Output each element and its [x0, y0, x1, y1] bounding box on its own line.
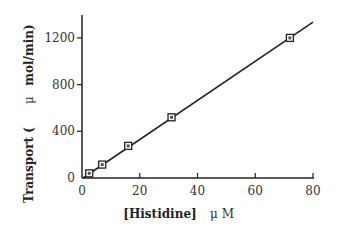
x-tick-label: 60	[248, 184, 263, 198]
y-axis-title: Transport (	[22, 127, 36, 203]
x-tick-label: 0	[78, 184, 86, 198]
axes	[82, 15, 314, 178]
y-tick-label: 0	[67, 171, 75, 185]
x-axis-title: [Histidine]	[123, 207, 196, 221]
x-axis-unit: μ M	[210, 207, 234, 221]
x-tick-label: 80	[305, 184, 320, 198]
x-axis-ticks: 020406080	[78, 173, 320, 198]
chart: 020406080 04008001200 [Histidine] μ M Tr…	[0, 0, 341, 234]
x-tick-label: 40	[190, 184, 205, 198]
y-axis-unit: mol/min)	[22, 24, 36, 85]
y-tick-label: 800	[52, 78, 75, 92]
x-tick-label: 20	[132, 184, 147, 198]
y-axis-unit-prefix: μ	[22, 96, 36, 104]
y-axis-ticks: 04008001200	[44, 31, 82, 185]
fit-line	[83, 22, 313, 178]
y-tick-label: 400	[52, 124, 75, 138]
y-tick-label: 1200	[44, 31, 75, 45]
